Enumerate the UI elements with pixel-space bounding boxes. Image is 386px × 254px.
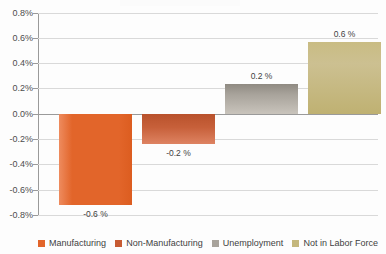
bar-manufacturing[interactable] (59, 114, 132, 205)
y-tick-label: -0.6% (1, 186, 33, 195)
y-tick-label: -0.4% (1, 160, 33, 169)
y-tick-label: 0.6% (1, 34, 33, 43)
y-tick-label: 0.2% (1, 84, 33, 93)
y-tick-label: -0.8% (1, 211, 33, 220)
y-tick-label: 0.8% (1, 9, 33, 18)
legend-item-manufacturing[interactable]: Manufacturing (38, 238, 106, 248)
legend-label: Non-Manufacturing (126, 238, 203, 248)
bar-not-in-labor-force[interactable] (308, 42, 381, 114)
legend-item-not-in-labor-force[interactable]: Not in Labor Force (292, 238, 378, 248)
chart-legend: Manufacturing Non-Manufacturing Unemploy… (38, 236, 382, 250)
legend-label: Unemployment (223, 238, 284, 248)
bar-label-manufacturing: -0.6 % (59, 209, 132, 219)
y-tick-label: 0.0% (1, 110, 33, 119)
y-tick-label: -0.2% (1, 135, 33, 144)
gridline (38, 13, 378, 14)
legend-item-non-manufacturing[interactable]: Non-Manufacturing (115, 238, 203, 248)
y-tick-label: 0.4% (1, 59, 33, 68)
bar-label-unemployment: 0.2 % (225, 71, 298, 81)
legend-swatch-icon (115, 240, 122, 247)
bar-unemployment[interactable] (225, 84, 298, 114)
legend-swatch-icon (212, 240, 219, 247)
top-crop-artifact (120, 0, 240, 6)
legend-label: Manufacturing (49, 238, 106, 248)
bar-non-manufacturing[interactable] (142, 114, 215, 144)
legend-item-unemployment[interactable]: Unemployment (212, 238, 284, 248)
legend-swatch-icon (38, 240, 45, 247)
y-axis-labels: 0.8% 0.6% 0.4% 0.2% 0.0% -0.2% -0.4% -0.… (0, 0, 33, 254)
bar-label-not-in-labor-force: 0.6 % (308, 29, 381, 39)
bar-label-non-manufacturing: -0.2 % (142, 148, 215, 158)
legend-swatch-icon (292, 240, 299, 247)
plot-area: -0.6 % -0.2 % 0.2 % 0.6 % (38, 13, 378, 215)
bar-chart: 0.8% 0.6% 0.4% 0.2% 0.0% -0.2% -0.4% -0.… (0, 0, 386, 254)
legend-label: Not in Labor Force (303, 238, 378, 248)
